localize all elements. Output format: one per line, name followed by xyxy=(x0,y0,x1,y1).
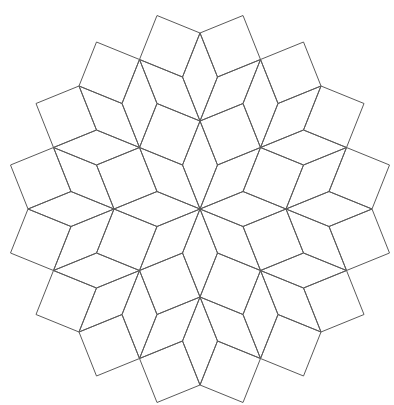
square-tile xyxy=(200,16,261,78)
rhombus-tile xyxy=(54,209,115,271)
rhombus-tile xyxy=(200,148,261,210)
square-tile xyxy=(329,148,390,210)
square-tile xyxy=(304,271,365,333)
rhombus-tile xyxy=(286,148,347,210)
square-tile xyxy=(140,341,201,403)
rhombus-tile xyxy=(286,192,372,227)
square-tile xyxy=(79,42,140,104)
rhombus-tile xyxy=(243,60,278,148)
rhombus-tile xyxy=(54,130,140,165)
rhombus-tile xyxy=(140,209,201,271)
square-tile xyxy=(140,104,201,166)
square-tile xyxy=(36,86,97,148)
tile-group xyxy=(11,16,390,403)
square-tile xyxy=(304,86,365,148)
tiling-diagram xyxy=(0,0,394,405)
square-tile xyxy=(261,42,322,104)
rhombus-tile xyxy=(261,253,347,288)
square-tile xyxy=(243,209,304,271)
rhombus-tile xyxy=(79,271,140,333)
rhombus-tile xyxy=(54,148,115,210)
square-tile xyxy=(261,315,322,377)
square-tile xyxy=(243,148,304,210)
square-tile xyxy=(200,341,261,403)
square-tile xyxy=(200,253,261,315)
rhombus-tile xyxy=(183,209,218,297)
square-tile xyxy=(11,148,72,210)
rhombus-tile xyxy=(28,192,114,227)
rhombus-tile xyxy=(200,209,261,271)
rhombus-tile xyxy=(114,192,200,227)
rhombus-tile xyxy=(286,209,347,271)
rhombus-tile xyxy=(200,60,261,122)
square-tile xyxy=(11,209,72,271)
rhombus-tile xyxy=(183,33,218,121)
rhombus-tile xyxy=(261,271,322,333)
rhombus-tile xyxy=(200,297,261,359)
square-tile xyxy=(140,253,201,315)
rhombus-tile xyxy=(122,60,157,148)
rhombus-tile xyxy=(140,60,201,122)
square-tile xyxy=(140,16,201,78)
rhombus-tile xyxy=(183,297,218,385)
rhombus-tile xyxy=(200,192,286,227)
rhombus-tile xyxy=(140,297,201,359)
square-tile xyxy=(79,315,140,377)
square-tile xyxy=(97,209,158,271)
rhombus-tile xyxy=(122,271,157,359)
rhombus-tile xyxy=(54,253,140,288)
rhombus-tile xyxy=(261,86,322,148)
square-tile xyxy=(200,104,261,166)
rhombus-tile xyxy=(243,271,278,359)
rhombus-tile xyxy=(183,121,218,209)
square-tile xyxy=(36,271,97,333)
rhombus-tile xyxy=(261,130,347,165)
square-tile xyxy=(97,148,158,210)
rhombus-tile xyxy=(140,148,201,210)
square-tile xyxy=(329,209,390,271)
rhombus-tile xyxy=(79,86,140,148)
